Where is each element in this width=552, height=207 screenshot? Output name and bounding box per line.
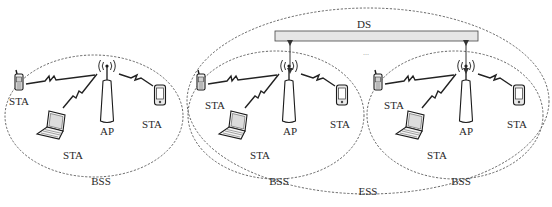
sta-label: STA — [9, 95, 29, 107]
bss-group-3 — [367, 51, 543, 179]
distribution-system-bar — [275, 31, 478, 41]
sta-label: STA — [205, 99, 225, 111]
bss-label: BSS — [451, 175, 471, 187]
ap-label: AP — [100, 125, 114, 137]
bss-boundary — [5, 55, 183, 177]
bss-label: BSS — [269, 175, 289, 187]
ap-label: AP — [459, 125, 473, 137]
sta-label: STA — [507, 118, 527, 130]
ap-label: AP — [283, 125, 297, 137]
bss-group-1 — [5, 55, 183, 177]
sta-label: STA — [384, 99, 404, 111]
ess-label: ESS — [359, 185, 378, 197]
bss-boundary — [367, 51, 543, 179]
sta-label: STA — [427, 149, 447, 161]
bss-ess-diagram: DS ... ESS STA STA STA AP BSS STA STA ST… — [0, 0, 552, 207]
ellipsis-label: ... — [363, 48, 369, 57]
ds-label: DS — [357, 18, 371, 30]
bss-group-2 — [188, 51, 364, 179]
sta-label: STA — [63, 149, 83, 161]
bss-boundary — [188, 51, 364, 179]
sta-label: STA — [142, 118, 162, 130]
sta-label: STA — [330, 118, 350, 130]
bss-label: BSS — [91, 175, 111, 187]
sta-label: STA — [250, 149, 270, 161]
